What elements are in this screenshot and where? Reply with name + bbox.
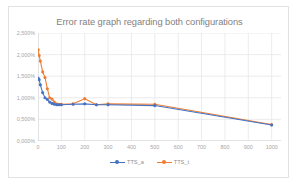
y-axis-tick-label: 0,500%	[17, 116, 35, 122]
x-axis-tick-label: 700	[197, 144, 206, 150]
x-axis-tick-label: 0	[37, 144, 40, 150]
data-point-tts_a	[72, 103, 75, 106]
legend-entry-tts_t[interactable]: TTS_t	[157, 159, 189, 165]
data-point-tts_a	[60, 103, 63, 106]
y-axis-tick-label: 0,000%	[17, 138, 35, 144]
x-axis-tick-label: 200	[80, 144, 89, 150]
data-point-tts_a	[107, 103, 110, 106]
chart-canvas	[38, 33, 281, 141]
data-point-tts_t	[50, 98, 53, 101]
y-axis-tick-label: 2,000%	[17, 52, 35, 58]
y-axis-tick-label: 1,000%	[17, 95, 35, 101]
data-point-tts_t	[39, 60, 42, 63]
data-point-tts_a	[270, 123, 273, 126]
legend-marker-icon	[110, 159, 125, 165]
data-point-tts_t	[46, 87, 49, 90]
chart-title: Error rate graph regarding both configur…	[9, 17, 290, 27]
x-axis-tick-label: 600	[174, 144, 183, 150]
x-axis-tick-label: 300	[104, 144, 113, 150]
chart-legend: TTS_aTTS_t	[9, 159, 290, 165]
chart-card: Error rate graph regarding both configur…	[8, 6, 289, 178]
legend-marker-icon	[157, 159, 172, 165]
x-axis-tick-label: 900	[244, 144, 253, 150]
legend-label: TTS_a	[127, 159, 144, 165]
x-axis-tick-label: 1000	[266, 144, 278, 150]
data-point-tts_t	[83, 97, 86, 100]
data-point-tts_a	[39, 83, 42, 86]
plot-wrapper: 0,000%0,500%1,000%1,500%2,000%2,500%0100…	[38, 33, 281, 141]
data-point-tts_t	[41, 70, 44, 73]
y-axis-tick-label: 1,500%	[17, 73, 35, 79]
data-point-tts_t	[43, 76, 46, 79]
plot-background	[38, 33, 281, 141]
data-point-tts_a	[95, 103, 98, 106]
data-point-tts_a	[41, 91, 44, 94]
x-axis-tick-label: 500	[150, 144, 159, 150]
x-axis-tick-label: 400	[127, 144, 136, 150]
x-axis-tick-label: 100	[57, 144, 66, 150]
y-axis-tick-label: 2,500%	[17, 30, 35, 36]
data-point-tts_a	[153, 104, 156, 107]
plot-area: 0,000%0,500%1,000%1,500%2,000%2,500%0100…	[38, 33, 281, 141]
legend-entry-tts_a[interactable]: TTS_a	[110, 159, 144, 165]
data-point-tts_a	[46, 98, 49, 101]
data-point-tts_a	[83, 102, 86, 105]
x-axis-tick-label: 800	[220, 144, 229, 150]
legend-label: TTS_t	[174, 159, 189, 165]
